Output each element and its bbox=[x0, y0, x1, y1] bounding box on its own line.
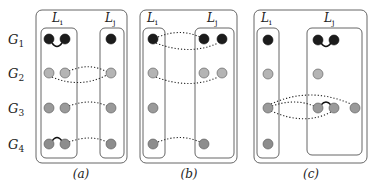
panel-b-node-g1-lj-2 bbox=[217, 34, 227, 44]
panel-a-edge-g4-solid bbox=[52, 138, 62, 142]
panel-c-node-g3-lj-3 bbox=[350, 103, 360, 113]
panel-a-caption: (a) bbox=[73, 167, 90, 181]
panel-b: Li Lj (b) bbox=[140, 10, 237, 181]
panel-b-node-g1-li-1 bbox=[148, 34, 158, 44]
panel-b-caption: (b) bbox=[180, 167, 197, 181]
row-label-g2: G2 bbox=[8, 66, 24, 83]
diagram-canvas: G1 G2 G3 G4 Li Lj (a) bbox=[0, 0, 377, 188]
panel-a-node-g3-lj-1 bbox=[106, 103, 116, 113]
panel-a-edge-g4 bbox=[69, 138, 107, 142]
panel-a-node-g4-li-1 bbox=[44, 139, 54, 149]
panel-c-node-g3-lj-2 bbox=[329, 103, 339, 113]
panel-c-edge-g3-bottom bbox=[271, 111, 331, 119]
panel-a-node-g4-li-2 bbox=[60, 139, 70, 149]
panel-c-li-label: Li bbox=[260, 11, 272, 27]
panel-a-node-g2-li-1 bbox=[44, 68, 54, 78]
row-label-g3: G3 bbox=[8, 101, 24, 118]
panel-c-edge-g3-outer bbox=[271, 95, 351, 104]
panel-a: Li Lj (a) bbox=[36, 10, 127, 181]
panel-c-caption: (c) bbox=[303, 167, 319, 181]
panel-a-edge-g2-top bbox=[69, 67, 107, 72]
panel-b-node-g4-lj-1 bbox=[199, 139, 209, 149]
panel-a-node-g2-li-2 bbox=[60, 68, 70, 78]
panel-a-li-label: Li bbox=[51, 11, 63, 27]
panel-a-node-g4-lj-1 bbox=[106, 139, 116, 149]
panel-a-node-g2-lj-1 bbox=[106, 68, 116, 78]
panel-b-lj-label: Lj bbox=[206, 11, 217, 27]
panel-c-li-box bbox=[257, 28, 279, 158]
panel-b-node-g4-li-1 bbox=[148, 139, 158, 149]
panel-c-node-g4-li-1 bbox=[263, 139, 273, 149]
panel-a-node-g1-li-1 bbox=[44, 34, 54, 44]
panel-c-edge-g1-solid bbox=[321, 43, 331, 47]
panel-c-node-g3-li-1 bbox=[263, 103, 273, 113]
panel-c-node-g2-li-1 bbox=[263, 69, 273, 79]
panel-b-edge-g1-top bbox=[158, 33, 200, 38]
panel-c-lj-label: Lj bbox=[323, 11, 334, 27]
panel-b-node-g2-li-1 bbox=[148, 68, 158, 78]
panel-b-node-g2-lj-1 bbox=[199, 68, 209, 78]
panel-c-node-g1-lj-1 bbox=[313, 35, 323, 45]
panel-b-edge-g4 bbox=[158, 138, 200, 143]
row-labels: G1 G2 G3 G4 bbox=[8, 32, 24, 154]
panel-c: Li Lj (c) bbox=[254, 10, 367, 181]
panel-c-edge-g3-solid bbox=[321, 102, 331, 105]
panel-b-node-g2-lj-2 bbox=[217, 68, 227, 78]
panel-a-lj-box bbox=[100, 28, 124, 158]
panel-b-li-box bbox=[143, 28, 165, 158]
panel-a-node-g1-li-2 bbox=[60, 34, 70, 44]
panel-b-node-g3-li-1 bbox=[148, 103, 158, 113]
panel-c-lj-box bbox=[307, 28, 362, 155]
panel-a-node-g1-lj-1 bbox=[106, 34, 116, 44]
panel-c-node-g3-lj-1 bbox=[313, 103, 323, 113]
panel-a-edge-g2-bottom bbox=[52, 75, 107, 83]
panel-a-edge-g1-solid bbox=[52, 43, 62, 47]
panel-c-edge-g3-inner bbox=[272, 102, 314, 106]
panel-c-node-g2-lj-1 bbox=[313, 69, 323, 79]
panel-c-node-g1-lj-2 bbox=[329, 35, 339, 45]
panel-b-lj-box bbox=[195, 28, 234, 158]
panel-b-node-g1-lj-1 bbox=[199, 34, 209, 44]
panel-c-node-g1-li-1 bbox=[263, 35, 273, 45]
panel-a-node-g3-li-1 bbox=[44, 103, 54, 113]
panel-a-edge-g3 bbox=[69, 102, 107, 106]
panel-a-lj-label: Lj bbox=[104, 11, 115, 27]
row-label-g1: G1 bbox=[8, 32, 24, 49]
panel-a-node-g3-li-2 bbox=[60, 103, 70, 113]
row-label-g4: G4 bbox=[8, 137, 24, 154]
panel-b-li-label: Li bbox=[146, 11, 158, 27]
